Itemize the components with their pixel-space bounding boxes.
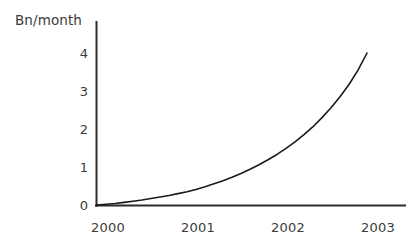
y-tick-label: 3 [60,85,88,98]
y-tick-label: 2 [60,123,88,136]
chart-container: Bn/month 01234 2000200120022003 [0,0,419,250]
x-tick-label: 2003 [361,221,395,234]
x-tick-label: 2002 [271,221,305,234]
series-line-bn-per-month [97,53,367,205]
y-tick-label: 0 [60,199,88,212]
y-tick-label: 4 [60,47,88,60]
x-tick-label: 2001 [181,221,215,234]
axes-group [96,22,405,206]
y-tick-label: 1 [60,161,88,174]
data-series-group [97,53,367,205]
x-tick-label: 2000 [91,221,125,234]
y-axis-title: Bn/month [15,14,82,28]
